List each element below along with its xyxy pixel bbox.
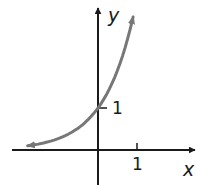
x-axis-label: x — [182, 158, 195, 180]
y-axis-label: y — [107, 4, 120, 26]
exponential-graph: y x 1 1 — [0, 0, 198, 185]
y-tick-label-1: 1 — [112, 98, 123, 118]
x-tick-label-1: 1 — [132, 154, 143, 174]
exponential-curve — [28, 17, 133, 146]
